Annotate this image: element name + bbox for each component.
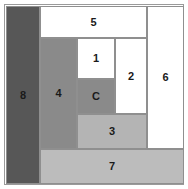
block-b8: 8	[6, 6, 40, 184]
block-label-b5: 5	[90, 17, 96, 28]
block-b7: 7	[40, 149, 184, 184]
block-label-b1: 1	[93, 53, 99, 64]
block-label-b3: 3	[109, 126, 115, 137]
block-b2: 2	[115, 38, 147, 114]
block-b3: 3	[77, 114, 147, 149]
block-label-b7: 7	[109, 161, 115, 172]
block-b1: 1	[77, 38, 115, 79]
block-b4: 4	[40, 38, 77, 149]
block-label-center: C	[92, 91, 100, 102]
block-label-b8: 8	[20, 90, 26, 101]
block-center: C	[77, 79, 115, 114]
block-b6: 6	[147, 6, 184, 149]
diagram-frame: C12345678	[4, 4, 184, 185]
block-b5: 5	[40, 6, 147, 38]
block-label-b6: 6	[162, 72, 168, 83]
block-label-b2: 2	[128, 71, 134, 82]
block-label-b4: 4	[55, 88, 61, 99]
diagram-canvas: C12345678	[0, 0, 188, 189]
